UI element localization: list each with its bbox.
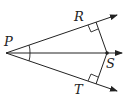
label-s: S (106, 56, 115, 71)
angle-arc-lower (29, 53, 30, 61)
angle-arc-upper (29, 45, 30, 53)
geometry-diagram: P R S T (0, 0, 129, 98)
label-t: T (74, 82, 84, 97)
right-angle-mark-t (88, 74, 98, 81)
label-p: P (3, 34, 13, 49)
point-s (105, 51, 109, 55)
right-angle-mark-r (88, 25, 98, 32)
segment-sr (96, 22, 107, 53)
label-r: R (73, 9, 84, 24)
